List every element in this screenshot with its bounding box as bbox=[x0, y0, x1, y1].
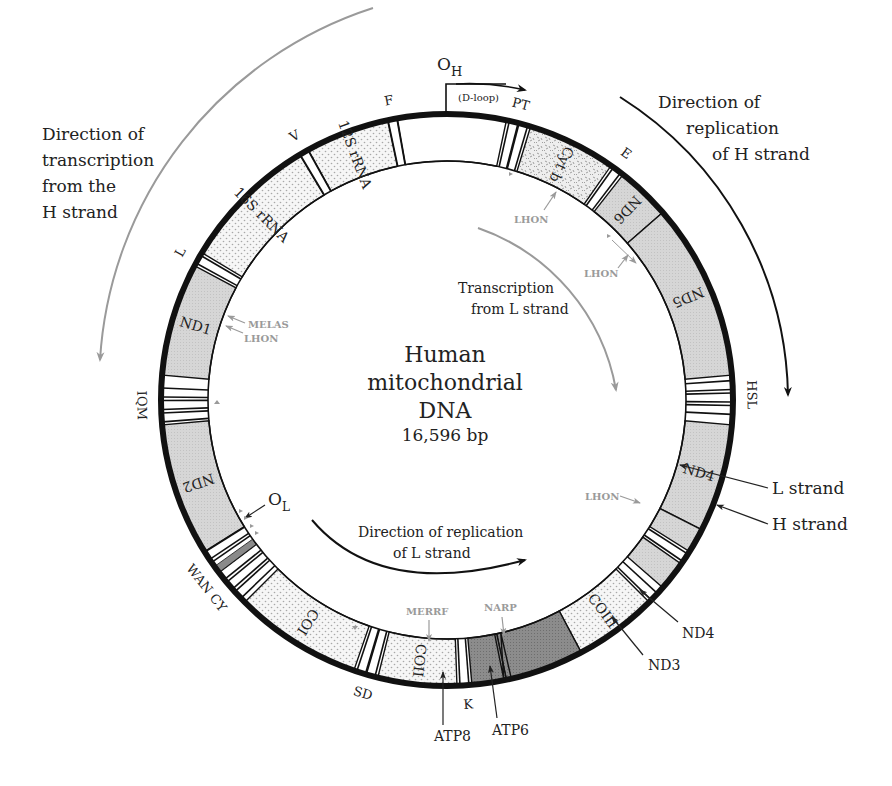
disease-narp: NARP bbox=[484, 602, 517, 613]
gene-d-loop bbox=[398, 115, 507, 166]
title-line-3: DNA bbox=[419, 398, 473, 423]
h-strand-label: H strand bbox=[772, 514, 848, 534]
disease-merrf: MERRF bbox=[406, 606, 448, 617]
disease-melas: MELAS bbox=[248, 319, 289, 330]
trna-label-k: K bbox=[463, 696, 474, 712]
disease-lhon-nd1: LHON bbox=[244, 333, 278, 344]
nd4l-pointer-label: ND4 bbox=[682, 625, 714, 641]
trna-label-sd: SD bbox=[352, 683, 375, 703]
trna-label-hsl: HSL bbox=[744, 380, 760, 410]
mtdna-diagram: Cyt bND6ND5ND4COIIICOIICOIND2ND116S rRNA… bbox=[0, 0, 892, 786]
trna-label-pt: PT bbox=[511, 95, 532, 114]
l-replication-text: Direction of replication of L strand bbox=[358, 524, 528, 561]
l-replication-arrow: Direction of replication of L strand bbox=[312, 520, 528, 573]
disease-lhon-nd6: LHON bbox=[584, 268, 618, 279]
h-replication-text: Direction of replication of H strand bbox=[658, 92, 810, 164]
origin-l-marker: OL bbox=[239, 489, 290, 535]
disease-lhon-nd4: LHON bbox=[585, 491, 619, 502]
title-line-1: Human bbox=[404, 342, 486, 367]
nd3-pointer-label: ND3 bbox=[648, 657, 680, 673]
origin-l-label: OL bbox=[268, 489, 290, 514]
trna-label-e: E bbox=[618, 144, 635, 162]
trna-label-v: V bbox=[286, 127, 303, 145]
atp6-pointer-label: ATP6 bbox=[491, 722, 529, 738]
disease-lhon-cytb: LHON bbox=[514, 214, 548, 225]
l-transcription-text: Transcription from L strand bbox=[458, 280, 569, 317]
atp8-pointer-label: ATP8 bbox=[433, 728, 471, 744]
dloop-label: (D-loop) bbox=[458, 92, 499, 103]
center-title: Human mitochondrial DNA 16,596 bp bbox=[367, 342, 523, 445]
genome-size: 16,596 bp bbox=[402, 425, 489, 445]
l-strand-label: L strand bbox=[772, 478, 844, 498]
origin-h-label: OH bbox=[437, 54, 462, 79]
trna-label-iqm: IQM bbox=[134, 391, 150, 420]
title-line-2: mitochondrial bbox=[367, 370, 523, 395]
trna-label-f: F bbox=[383, 92, 395, 108]
trna-label-l: L bbox=[172, 244, 189, 259]
